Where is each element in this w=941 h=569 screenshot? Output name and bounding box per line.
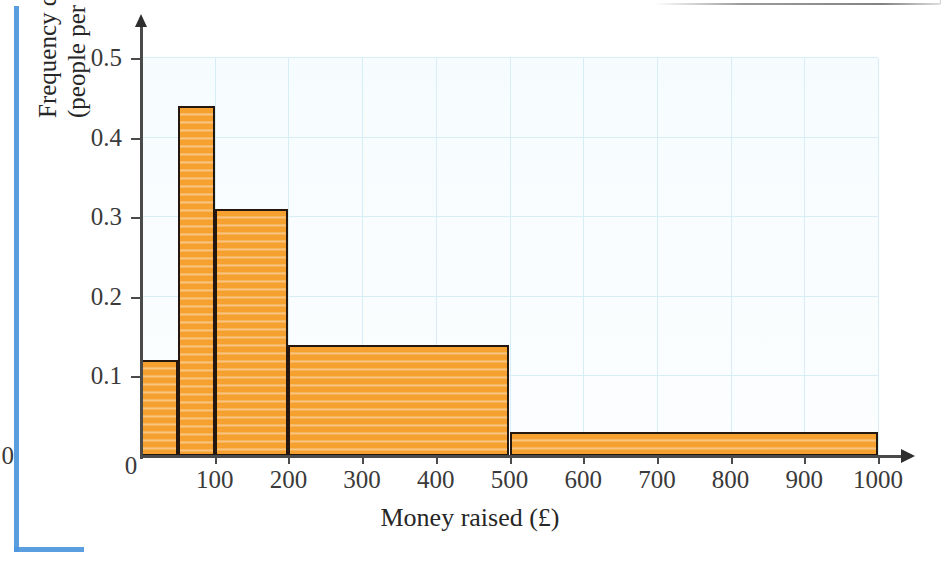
gridline-horizontal bbox=[141, 57, 878, 58]
page-edge-top-border bbox=[655, 0, 941, 4]
x-axis-tick-label: 300 bbox=[343, 466, 381, 494]
histogram-bar bbox=[510, 432, 879, 456]
histogram-bar bbox=[215, 209, 289, 456]
x-axis-tick bbox=[436, 455, 438, 464]
x-axis-tick bbox=[583, 455, 585, 464]
x-axis-tick-label: 700 bbox=[638, 466, 676, 494]
x-axis-tick bbox=[657, 455, 659, 464]
gridline-vertical bbox=[583, 58, 584, 456]
plot-area bbox=[141, 58, 878, 456]
x-axis-line bbox=[141, 455, 903, 458]
y-axis-tick bbox=[131, 58, 141, 60]
x-axis-tick-label: 500 bbox=[491, 466, 529, 494]
y-axis-title-line1: Frequency density bbox=[34, 0, 61, 118]
x-axis-tick-label: 400 bbox=[417, 466, 455, 494]
histogram-bar bbox=[178, 106, 215, 456]
y-axis-tick bbox=[131, 217, 141, 219]
histogram-bar bbox=[141, 360, 178, 456]
gridline-vertical bbox=[878, 58, 879, 456]
y-axis-tick-label: 0.1 bbox=[91, 362, 122, 390]
x-axis-arrowhead-icon bbox=[901, 449, 915, 463]
x-axis-tick-label: 100 bbox=[196, 466, 234, 494]
x-axis-tick-label: 600 bbox=[564, 466, 602, 494]
y-axis-title-line2: (people per £) bbox=[63, 0, 92, 118]
x-axis-tick bbox=[878, 455, 880, 464]
gridline-vertical bbox=[510, 58, 511, 456]
y-axis-title: Frequency density (people per £) bbox=[34, 0, 92, 118]
x-axis-tick-label: 800 bbox=[712, 466, 750, 494]
gridline-vertical bbox=[657, 58, 658, 456]
y-axis-tick-label: 0.3 bbox=[91, 203, 122, 231]
x-axis-tick-label: 1000 bbox=[853, 466, 903, 494]
x-axis-tick bbox=[510, 455, 512, 464]
y-axis-tick bbox=[131, 297, 141, 299]
gridline-vertical bbox=[731, 58, 732, 456]
x-axis-tick-label: 900 bbox=[786, 466, 824, 494]
histogram-bar bbox=[288, 345, 509, 456]
gridline-horizontal bbox=[141, 137, 878, 138]
gridline-vertical bbox=[804, 58, 805, 456]
x-axis-tick bbox=[215, 455, 217, 464]
x-axis-title: Money raised (£) bbox=[0, 503, 940, 533]
y-axis-arrowhead-icon bbox=[135, 14, 147, 27]
y-axis-tick bbox=[131, 376, 141, 378]
x-axis-tick bbox=[288, 455, 290, 464]
y-axis-tick-label: 0.5 bbox=[91, 44, 122, 72]
x-axis-tick-label: 0 bbox=[125, 452, 138, 480]
x-axis-tick bbox=[362, 455, 364, 464]
y-axis-tick-label: 0 bbox=[2, 442, 15, 470]
x-axis-tick bbox=[804, 455, 806, 464]
y-axis-tick-label: 0.4 bbox=[91, 124, 122, 152]
y-axis-tick bbox=[131, 138, 141, 140]
y-axis-tick-label: 0.2 bbox=[91, 283, 122, 311]
x-axis-tick bbox=[731, 455, 733, 464]
x-axis-tick-label: 200 bbox=[270, 466, 308, 494]
y-axis-line bbox=[140, 22, 143, 459]
